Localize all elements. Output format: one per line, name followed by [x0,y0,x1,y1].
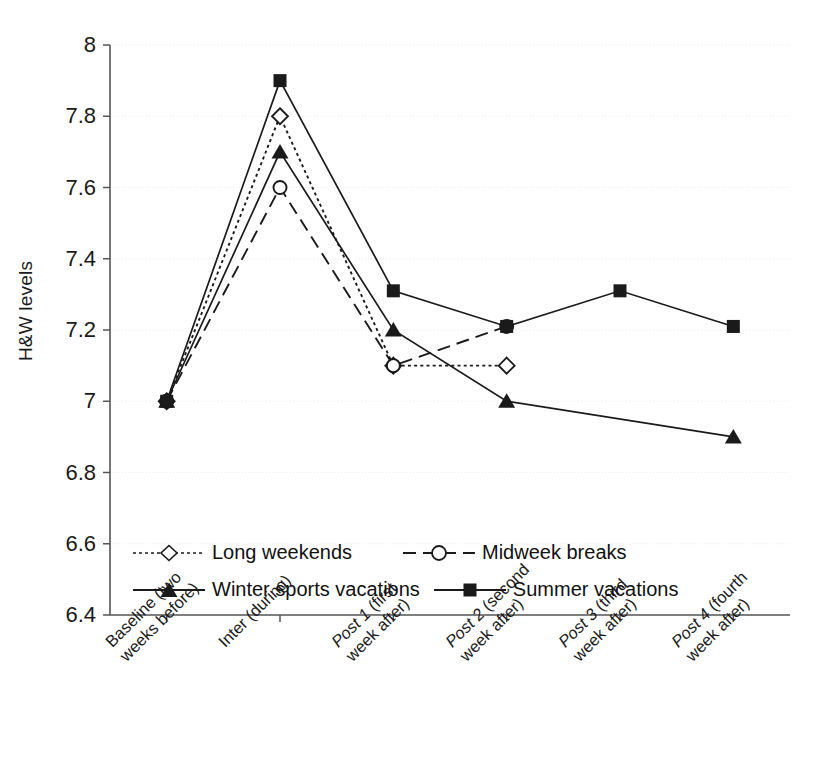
y-axis-tick-label: 7 [0,388,96,414]
y-axis-tick-label: 6.8 [0,460,96,486]
data-point-marker [387,359,400,372]
y-axis-tick-label: 6.4 [0,602,96,628]
data-point-marker [498,393,515,408]
data-point-marker [727,320,740,333]
legend-item-summer-vacations[interactable]: Summer vacations [434,578,679,601]
series-line [167,152,734,437]
legend-swatch-summer-vacations [434,579,506,601]
legend-item-winter-sports-vacations[interactable]: Winter sports vacations [133,578,420,601]
y-axis-tick-label: 7.2 [0,317,96,343]
legend-label-summer-vacations: Summer vacations [513,578,679,601]
legend-label-winter-sports-vacations: Winter sports vacations [212,578,420,601]
y-axis-tick-label: 7.6 [0,175,96,201]
data-point-marker [614,284,627,297]
y-axis-tick-label: 7.8 [0,103,96,129]
data-point-marker [160,395,173,408]
legend-item-long-weekends[interactable]: Long weekends [133,541,403,564]
y-axis-tick-label: 7.4 [0,246,96,272]
data-point-marker [272,144,289,159]
legend-label-midweek-breaks: Midweek breaks [482,541,627,564]
legend-swatch-midweek-breaks [403,542,475,564]
y-axis-tick-label: 8 [0,32,96,58]
legend-swatch-winter-sports-vacations [133,579,205,601]
data-point-marker [274,74,287,87]
legend: Long weekends Midweek breaks Winter spor… [133,541,678,601]
legend-label-long-weekends: Long weekends [212,541,352,564]
legend-item-midweek-breaks[interactable]: Midweek breaks [403,541,627,564]
legend-row-2: Winter sports vacations Summer vacations [133,578,678,601]
data-point-marker [500,320,513,333]
data-point-marker [385,322,402,337]
legend-swatch-long-weekends [133,542,205,564]
data-point-marker [499,358,515,374]
y-axis-tick-label: 6.6 [0,531,96,557]
chart-figure: H&W levels 87.87.67.47.276.86.66.4 Basel… [0,0,821,781]
legend-row-1: Long weekends Midweek breaks [133,541,678,564]
data-point-marker [274,181,287,194]
data-point-marker [387,284,400,297]
data-point-marker [272,108,288,124]
